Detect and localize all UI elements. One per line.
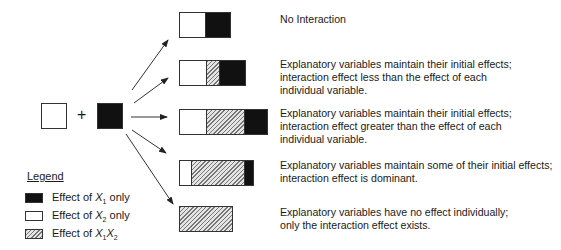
arrow-to-row-4 bbox=[132, 130, 166, 153]
row-1-description: No Interaction bbox=[280, 13, 346, 26]
row-5-description: Explanatory variables have no effect ind… bbox=[280, 206, 508, 232]
row-4-description: Explanatory variables maintain some of t… bbox=[280, 159, 552, 185]
arrow-to-row-5 bbox=[126, 134, 173, 204]
legend-label: Effect of X1X2 bbox=[52, 227, 118, 241]
x2-segment bbox=[180, 13, 205, 37]
row-2-bar bbox=[179, 60, 246, 86]
legend-item-x1: Effect of X1 only bbox=[25, 191, 130, 205]
row-5-bar bbox=[179, 206, 233, 232]
hatch-swatch-icon bbox=[25, 229, 43, 239]
x2-segment bbox=[180, 61, 206, 85]
legend-label: Effect of X2 only bbox=[52, 209, 130, 223]
x1x2-segment bbox=[180, 207, 232, 231]
x1x2-segment bbox=[206, 61, 219, 85]
x1-segment bbox=[244, 161, 253, 185]
x1x2-segment bbox=[191, 161, 244, 185]
legend-item-x2: Effect of X2 only bbox=[25, 209, 130, 223]
x2-segment bbox=[180, 161, 191, 185]
x2-segment bbox=[180, 110, 206, 134]
row-3-bar bbox=[179, 109, 268, 135]
row-2-description: Explanatory variables maintain their ini… bbox=[280, 58, 512, 98]
legend-item-x1x2: Effect of X1X2 bbox=[25, 227, 118, 241]
row-4-bar bbox=[179, 160, 254, 186]
legend-title: Legend bbox=[27, 170, 64, 182]
white-swatch-icon bbox=[25, 211, 43, 221]
legend-label: Effect of X1 only bbox=[52, 191, 130, 205]
arrow-to-row-2 bbox=[134, 78, 168, 103]
x1x2-segment bbox=[206, 110, 244, 134]
x1-segment bbox=[219, 61, 245, 85]
x1-segment bbox=[244, 110, 267, 134]
row-1-bar bbox=[179, 12, 231, 38]
x1-segment bbox=[205, 13, 230, 37]
row-3-description: Explanatory variables maintain their ini… bbox=[280, 107, 512, 147]
black-swatch-icon bbox=[25, 193, 43, 203]
